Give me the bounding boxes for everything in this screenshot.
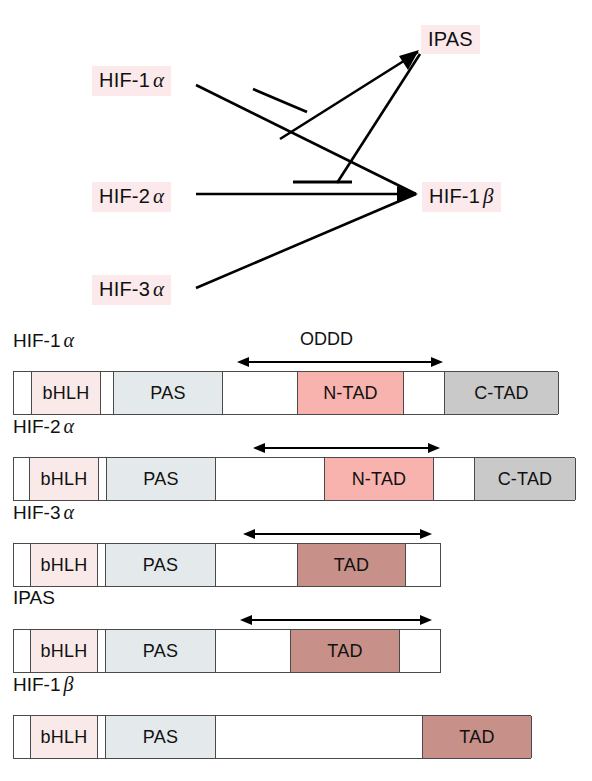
network-node-hif-2-alpha[interactable]: HIF-2α: [92, 182, 171, 212]
greek-alpha-glyph: α: [150, 68, 164, 92]
protein-row-hif1b: HIF-1βbHLHPASTAD: [0, 674, 592, 760]
greek-beta-glyph: β: [61, 673, 74, 695]
domain-segment-label: bHLH: [41, 641, 88, 662]
edge-hif1a-to-hif1b: [196, 85, 416, 194]
domain-segment-bhlh[interactable]: bHLH: [31, 372, 101, 414]
node-label-text: HIF-2: [99, 185, 150, 207]
protein-name-hif2a: HIF-2α: [13, 416, 74, 436]
greek-alpha-glyph: α: [150, 184, 164, 208]
domain-segment-label: TAD: [334, 555, 369, 576]
network-node-ipas[interactable]: IPAS: [421, 25, 480, 54]
edge-hif3a-to-hif1b: [196, 194, 416, 288]
domain-segment-bhlh[interactable]: bHLH: [29, 458, 99, 500]
domain-segment-tad[interactable]: TAD: [290, 630, 400, 672]
protein-bar-hif3a: bHLHPASTAD: [13, 543, 441, 587]
protein-name-hif1b: HIF-1β: [13, 674, 73, 694]
edge-ipas-to-hif1a: [280, 52, 418, 139]
domain-span-arrow-hif3a: [243, 526, 432, 542]
protein-name-ipas: IPAS: [13, 588, 55, 607]
domain-segment-label: bHLH: [41, 469, 88, 490]
domain-segment-pas[interactable]: PAS: [105, 544, 216, 586]
protein-row-hif1a: HIF-1αODDDbHLHPASN-TADC-TAD: [0, 330, 592, 416]
greek-alpha-glyph: α: [61, 415, 75, 437]
protein-name-text: HIF-3: [13, 502, 61, 523]
domain-segment-pas[interactable]: PAS: [105, 630, 216, 672]
domain-segment-label: N-TAD: [323, 383, 378, 404]
network-lines: [0, 0, 592, 330]
protein-name-text: IPAS: [13, 587, 55, 608]
domain-architecture-rows: HIF-1αODDDbHLHPASN-TADC-TADHIF-2αbHLHPAS…: [0, 330, 592, 781]
node-label-text: IPAS: [428, 28, 473, 50]
domain-segment-bhlh[interactable]: bHLH: [30, 544, 98, 586]
protein-row-hif3a: HIF-3αbHLHPASTAD: [0, 502, 592, 588]
domain-segment-pas[interactable]: PAS: [113, 372, 223, 414]
protein-bar-hif2a: bHLHPASN-TADC-TAD: [13, 457, 575, 501]
network-node-hif-1-alpha[interactable]: HIF-1α: [92, 66, 171, 96]
protein-row-hif2a: HIF-2αbHLHPASN-TADC-TAD: [0, 416, 592, 502]
network-node-hif-3-alpha[interactable]: HIF-3α: [92, 275, 171, 305]
domain-segment-c-tad[interactable]: C-TAD: [474, 458, 576, 500]
protein-name-hif1a: HIF-1α: [13, 330, 74, 350]
domain-segment-bhlh[interactable]: bHLH: [30, 630, 98, 672]
figure-root: HIF-1α HIF-2α HIF-3α IPAS HIF-1β HIF-1αO…: [0, 0, 592, 781]
domain-segment-tad[interactable]: TAD: [297, 544, 406, 586]
domain-segment-bhlh[interactable]: bHLH: [30, 716, 98, 758]
node-label-text: HIF-1: [429, 185, 480, 207]
greek-alpha-glyph: α: [150, 277, 164, 301]
domain-segment-c-tad[interactable]: C-TAD: [444, 372, 559, 414]
domain-span-arrow-hif1a: [237, 354, 443, 370]
domain-segment-n-tad[interactable]: N-TAD: [297, 372, 404, 414]
domain-segment-pas[interactable]: PAS: [106, 458, 216, 500]
inhibition-bar-hif1a: [253, 89, 307, 112]
domain-segment-label: bHLH: [41, 727, 88, 748]
interaction-network: HIF-1α HIF-2α HIF-3α IPAS HIF-1β: [0, 0, 592, 330]
domain-segment-label: PAS: [143, 555, 178, 576]
greek-alpha-glyph: α: [61, 329, 75, 351]
greek-beta-glyph: β: [480, 184, 494, 208]
domain-segment-label: C-TAD: [498, 469, 553, 490]
domain-segment-label: C-TAD: [474, 383, 529, 404]
domain-segment-label: PAS: [150, 383, 185, 404]
protein-bar-ipas: bHLHPASTAD: [13, 629, 441, 673]
domain-span-arrow-ipas: [240, 612, 432, 628]
edge-ipas-to-hif2a: [337, 54, 420, 183]
node-label-text: HIF-3: [99, 278, 150, 300]
network-node-hif-1-beta[interactable]: HIF-1β: [422, 182, 501, 212]
domain-segment-tad[interactable]: TAD: [422, 716, 532, 758]
domain-segment-n-tad[interactable]: N-TAD: [324, 458, 434, 500]
domain-segment-label: bHLH: [43, 383, 90, 404]
domain-segment-label: TAD: [327, 641, 362, 662]
domain-segment-label: N-TAD: [352, 469, 407, 490]
protein-bar-hif1a: bHLHPASN-TADC-TAD: [13, 371, 558, 415]
domain-segment-label: PAS: [143, 727, 178, 748]
domain-span-arrow-hif2a: [253, 440, 440, 456]
protein-name-hif3a: HIF-3α: [13, 502, 74, 522]
protein-row-ipas: IPASbHLHPASTAD: [0, 588, 592, 674]
protein-name-text: HIF-1: [13, 330, 61, 351]
domain-segment-label: PAS: [143, 469, 178, 490]
node-label-text: HIF-1: [99, 69, 150, 91]
greek-alpha-glyph: α: [61, 501, 75, 523]
domain-segment-label: bHLH: [41, 555, 88, 576]
domain-segment-label: TAD: [459, 727, 494, 748]
protein-bar-hif1b: bHLHPASTAD: [13, 715, 531, 759]
protein-name-text: HIF-2: [13, 416, 61, 437]
domain-segment-label: PAS: [143, 641, 178, 662]
domain-segment-pas[interactable]: PAS: [105, 716, 216, 758]
domain-span-annotation-hif1a: ODDD: [300, 330, 353, 348]
protein-name-text: HIF-1: [13, 674, 61, 695]
